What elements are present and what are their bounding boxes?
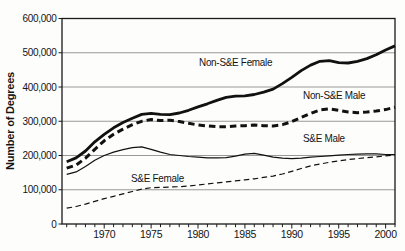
x-axis-ticks: 1970197519801985199019952000 bbox=[67, 224, 397, 240]
x-tick-label: 2000 bbox=[375, 228, 398, 240]
y-tick-label: 300,000 bbox=[22, 116, 57, 127]
series-label-non-se-male: Non-S&E Male bbox=[303, 89, 365, 101]
y-tick-label: 600,000 bbox=[22, 13, 57, 24]
x-tick-label: 1980 bbox=[187, 228, 210, 240]
line-non-s-e-male bbox=[67, 107, 395, 168]
series-label-se-female: S&E Female bbox=[131, 172, 184, 184]
series-label-se-male: S&E Male bbox=[303, 132, 345, 144]
line-s-e-female bbox=[67, 155, 395, 208]
line-s-e-male bbox=[67, 147, 395, 174]
y-tick-label: 500,000 bbox=[22, 47, 57, 58]
y-axis-ticks: 0100,000200,000300,000400,000500,000600,… bbox=[22, 13, 62, 230]
y-tick-label: 100,000 bbox=[22, 184, 57, 195]
series-label-non-se-female: Non-S&E Female bbox=[199, 56, 272, 68]
x-tick-label: 1990 bbox=[281, 228, 304, 240]
chart-figure: 0100,000200,000300,000400,000500,000600,… bbox=[0, 0, 405, 251]
plot-canvas: 0100,000200,000300,000400,000500,000600,… bbox=[0, 0, 405, 251]
y-tick-label: 200,000 bbox=[22, 150, 57, 161]
x-tick-label: 1985 bbox=[234, 228, 257, 240]
gridlines bbox=[62, 53, 395, 190]
y-tick-label: 0 bbox=[51, 219, 57, 230]
y-axis-title: Number of Degrees bbox=[4, 72, 16, 170]
x-tick-label: 1975 bbox=[140, 228, 163, 240]
x-tick-label: 1970 bbox=[93, 228, 116, 240]
y-tick-label: 400,000 bbox=[22, 82, 57, 93]
x-tick-label: 1995 bbox=[328, 228, 351, 240]
